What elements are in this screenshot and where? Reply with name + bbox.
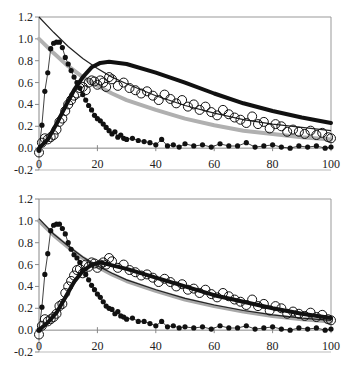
data-point <box>39 123 44 128</box>
data-point <box>42 272 47 277</box>
data-point <box>153 142 158 147</box>
data-point <box>115 309 120 314</box>
data-point <box>57 40 62 45</box>
y-tick-label: 1.0 <box>18 32 33 46</box>
y-tick-label: 0.6 <box>18 76 33 90</box>
data-point <box>217 141 222 146</box>
data-point <box>124 137 129 142</box>
data-point <box>244 140 249 145</box>
data-point <box>177 144 182 149</box>
data-point <box>217 323 222 328</box>
data-point <box>69 247 74 252</box>
data-point <box>112 129 117 134</box>
y-tick-label: -0.2 <box>14 345 33 359</box>
data-point <box>314 143 319 148</box>
x-tick-label: 80 <box>267 339 279 353</box>
data-point <box>218 105 227 114</box>
data-point <box>182 324 187 329</box>
data-point <box>288 146 293 151</box>
figure: -0.20.00.20.40.60.81.01.2020406080100 -0… <box>0 0 351 370</box>
data-point <box>153 323 158 328</box>
data-point <box>142 319 147 324</box>
data-point <box>109 307 114 312</box>
x-tick-label: 20 <box>91 157 103 171</box>
x-tick-label: 40 <box>150 339 162 353</box>
data-point <box>314 325 319 330</box>
data-point <box>248 112 257 121</box>
data-point <box>328 326 333 331</box>
data-point <box>323 146 328 151</box>
data-point <box>182 141 187 146</box>
data-point <box>296 325 301 330</box>
data-point <box>136 138 141 143</box>
data-point <box>124 317 129 322</box>
data-point <box>136 319 141 324</box>
data-point <box>147 140 152 145</box>
data-point <box>171 142 176 147</box>
data-point <box>63 231 68 236</box>
y-tick-label: 0.4 <box>18 97 33 111</box>
y-tick-label: 0.4 <box>18 279 33 293</box>
x-tick-label: 40 <box>150 157 162 171</box>
x-tick-label: 100 <box>322 157 340 171</box>
y-tick-label: 0.2 <box>18 301 33 315</box>
data-point <box>165 143 170 148</box>
x-tick-label: 60 <box>208 157 220 171</box>
data-point <box>63 55 68 60</box>
data-point <box>101 299 106 304</box>
data-point <box>66 240 71 245</box>
data-point <box>159 137 164 142</box>
data-point <box>142 139 147 144</box>
y-tick-label: 0.6 <box>18 258 33 272</box>
y-tick-label: 0.8 <box>18 54 33 68</box>
data-point <box>296 143 301 148</box>
x-tick-label: 60 <box>208 339 220 353</box>
data-point <box>130 136 135 141</box>
data-point <box>130 316 135 321</box>
data-point <box>98 295 103 300</box>
data-point <box>305 144 310 149</box>
y-tick-label: 1.2 <box>18 192 33 206</box>
chart-panel-top: -0.20.00.20.40.60.81.01.2020406080100 <box>14 10 340 177</box>
y-tick-label: 0.2 <box>18 119 33 133</box>
data-point <box>86 277 91 282</box>
data-point <box>92 287 97 292</box>
data-point <box>83 97 88 102</box>
data-point <box>57 222 62 227</box>
x-tick-label: 100 <box>322 339 340 353</box>
data-point <box>39 305 44 310</box>
data-point <box>42 89 47 94</box>
data-point <box>48 46 53 51</box>
data-point <box>261 325 266 330</box>
y-tick-label: 0.0 <box>18 141 33 155</box>
x-tick-label: 20 <box>91 339 103 353</box>
data-point <box>60 226 65 231</box>
data-point <box>60 45 65 50</box>
x-tick-label: 0 <box>36 157 42 171</box>
data-point <box>270 324 275 329</box>
data-point <box>252 144 257 149</box>
data-point <box>66 61 71 66</box>
data-point <box>226 325 231 330</box>
data-point <box>147 321 152 326</box>
data-point <box>235 325 240 330</box>
data-point <box>191 325 196 330</box>
data-point <box>71 75 76 80</box>
data-point <box>48 228 53 233</box>
series-gray-decay <box>39 39 331 139</box>
data-point <box>209 144 214 149</box>
x-tick-label: 0 <box>36 339 42 353</box>
y-tick-label: -0.2 <box>14 163 33 177</box>
x-tick-label: 80 <box>267 157 279 171</box>
data-point <box>177 325 182 330</box>
data-point <box>89 107 94 112</box>
data-point <box>261 143 266 148</box>
data-point <box>252 326 257 331</box>
data-point <box>288 328 293 333</box>
data-point <box>160 90 169 99</box>
data-point <box>279 326 284 331</box>
y-tick-label: 0.0 <box>18 323 33 337</box>
data-point <box>89 283 94 288</box>
data-point <box>323 328 328 333</box>
data-point <box>270 142 275 147</box>
